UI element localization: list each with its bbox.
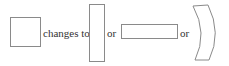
curved-shape — [0, 0, 229, 66]
